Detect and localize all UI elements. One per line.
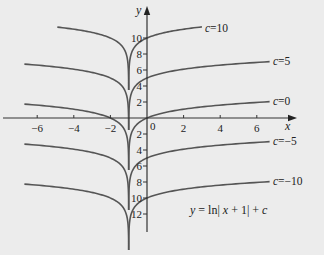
y-tick-label: 10: [131, 192, 143, 204]
origin-label: 0: [150, 120, 156, 132]
formula-label: y = ln| x + 1| + c: [189, 203, 268, 217]
curve-label: c=−10: [273, 175, 303, 187]
curve-label: c=5: [273, 55, 291, 67]
y-tick-label: 8: [137, 48, 143, 60]
curve-left-branch: [24, 184, 128, 250]
y-tick-label: 6: [137, 160, 143, 172]
x-tick-label: −4: [68, 122, 80, 134]
y-axis-arrow-icon: [144, 6, 150, 15]
y-tick-label: 10: [131, 32, 143, 44]
curve-right-branch: [129, 142, 270, 210]
curve-left-branch: [57, 27, 128, 90]
y-tick-label: 4: [137, 80, 143, 92]
x-tick-label: 6: [254, 122, 260, 134]
curve-label: c=−5: [273, 135, 297, 147]
x-axis-label: x: [284, 119, 291, 133]
y-tick-label: 12: [131, 208, 142, 220]
x-tick-label: 2: [181, 122, 187, 134]
x-tick-label: −2: [105, 122, 117, 134]
curve-label: c=0: [273, 95, 291, 107]
y-ticks: 10864224681012: [131, 32, 147, 220]
y-axis-label: y: [135, 3, 142, 17]
y-tick-label: 2: [137, 128, 143, 140]
y-tick-label: 2: [137, 96, 143, 108]
chart-canvas: −6−4−2246 10864224681012 x y 0 c=10c=5c=…: [0, 0, 324, 255]
x-tick-label: −6: [31, 122, 43, 134]
y-tick-label: 8: [137, 176, 143, 188]
y-tick-label: 4: [137, 144, 143, 156]
x-tick-label: 4: [217, 122, 223, 134]
curve-right-branch: [129, 102, 270, 170]
curve-label: c=10: [205, 22, 228, 34]
y-tick-label: 6: [137, 64, 143, 76]
